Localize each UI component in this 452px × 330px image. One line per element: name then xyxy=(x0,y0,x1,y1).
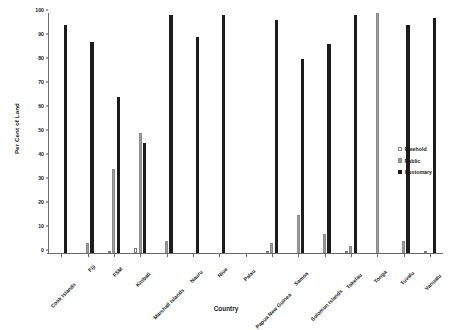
y-tick-label: 100 xyxy=(35,7,44,13)
bar-group xyxy=(206,13,232,253)
y-axis-title-label: Per Cent of Land xyxy=(13,103,20,154)
bar-public xyxy=(376,13,379,253)
y-axis-title: Per Cent of Land xyxy=(4,0,28,258)
x-tick-label-text: Nauru xyxy=(188,269,203,284)
x-tick-mark xyxy=(219,254,220,257)
x-tick-label-text: Marshall Islands xyxy=(151,287,184,320)
bar-public xyxy=(297,215,300,253)
bar-public xyxy=(139,133,142,253)
bar-group xyxy=(338,13,364,253)
x-tick-label-text: Tuvalu xyxy=(399,270,415,286)
bar-customary xyxy=(64,25,67,253)
legend-item[interactable]: Public xyxy=(398,158,450,164)
bar-customary xyxy=(327,44,330,253)
x-tick-label-text: Vanuatu xyxy=(423,273,442,292)
x-tick-mark xyxy=(61,254,62,257)
x-tick-mark xyxy=(325,254,326,257)
bar-customary xyxy=(301,59,304,253)
x-tick-label: Tonga xyxy=(384,258,399,273)
x-axis-tick-labels: Cook IslandsFijiFSMKiribatiMarshall Isla… xyxy=(48,254,443,306)
x-tick-label-text: FSM xyxy=(111,266,123,278)
legend-item[interactable]: Freehold xyxy=(398,146,450,152)
bar-group xyxy=(101,13,127,253)
bar-customary xyxy=(169,15,172,253)
y-tick-label: 40 xyxy=(38,151,44,157)
bar-group xyxy=(232,13,258,253)
bar-freehold xyxy=(108,251,111,253)
x-tick-label: FSM xyxy=(119,258,131,270)
legend-swatch-public xyxy=(398,158,402,162)
x-tick-mark xyxy=(88,254,89,257)
bar-customary xyxy=(354,15,357,253)
legend-label: Public xyxy=(404,158,420,164)
y-tick-label: 20 xyxy=(38,199,44,205)
bar-customary xyxy=(222,15,225,253)
bar-freehold xyxy=(345,251,348,253)
x-tick-label: Nauru xyxy=(199,258,214,273)
bar-customary xyxy=(433,18,436,253)
bar-group xyxy=(153,13,179,253)
plot-area xyxy=(48,13,443,253)
y-axis: 0102030405060708090100 xyxy=(30,10,48,258)
bar-public xyxy=(86,243,89,253)
legend-label: Freehold xyxy=(404,146,426,152)
bar-freehold xyxy=(424,251,427,253)
bar-group xyxy=(417,13,443,253)
bar-group xyxy=(285,13,311,253)
bar-customary xyxy=(90,42,93,253)
x-tick-label-text: Tonga xyxy=(373,269,388,284)
x-tick-label-text: Kiribati xyxy=(135,271,152,288)
x-tick-mark xyxy=(167,254,168,257)
x-tick-mark xyxy=(114,254,115,257)
bar-freehold xyxy=(266,251,269,253)
bar-group xyxy=(74,13,100,253)
bar-public xyxy=(270,243,273,253)
bar-group xyxy=(48,13,74,253)
y-tick-label: 30 xyxy=(38,175,44,181)
legend-label: Customary xyxy=(404,169,432,175)
x-tick-mark xyxy=(140,254,141,257)
y-tick-label: 90 xyxy=(38,31,44,37)
x-tick-mark xyxy=(298,254,299,257)
x-tick-label-text: Palau xyxy=(242,268,256,282)
y-tick-label: 0 xyxy=(41,247,44,253)
bar-public xyxy=(323,234,326,253)
x-tick-label: Palau xyxy=(252,258,266,272)
bar-public xyxy=(112,169,115,253)
legend-item[interactable]: Customary xyxy=(398,169,450,175)
x-tick-mark xyxy=(430,254,431,257)
y-tick-label: 60 xyxy=(38,103,44,109)
bar-group xyxy=(390,13,416,253)
x-axis-title-label: Country xyxy=(214,305,239,312)
bar-group xyxy=(180,13,206,253)
x-tick-mark xyxy=(404,254,405,257)
bar-customary xyxy=(196,37,199,253)
x-tick-label: Kiribati xyxy=(148,258,165,275)
y-tick-label: 80 xyxy=(38,55,44,61)
x-tick-mark xyxy=(351,254,352,257)
bar-group xyxy=(311,13,337,253)
legend-swatch-customary xyxy=(398,170,402,174)
legend-swatch-freehold xyxy=(398,147,402,151)
x-tick-mark xyxy=(377,254,378,257)
bar-customary xyxy=(406,25,409,253)
x-tick-mark xyxy=(193,254,194,257)
bar-public xyxy=(402,241,405,253)
y-tick-label: 50 xyxy=(38,127,44,133)
bar-public xyxy=(349,246,352,253)
y-tick-label: 70 xyxy=(38,79,44,85)
x-axis-title: Country xyxy=(0,305,452,312)
x-tick-label-text: Niue xyxy=(216,266,228,278)
bar-customary xyxy=(117,97,120,253)
bar-freehold xyxy=(134,248,137,253)
x-tick-mark xyxy=(272,254,273,257)
bar-customary xyxy=(143,143,146,253)
x-tick-label: Niue xyxy=(225,258,237,270)
bar-group xyxy=(364,13,390,253)
bar-group xyxy=(259,13,285,253)
y-tick-mark xyxy=(46,10,49,11)
x-tick-mark xyxy=(246,254,247,257)
y-tick-label: 10 xyxy=(38,223,44,229)
bar-group xyxy=(127,13,153,253)
